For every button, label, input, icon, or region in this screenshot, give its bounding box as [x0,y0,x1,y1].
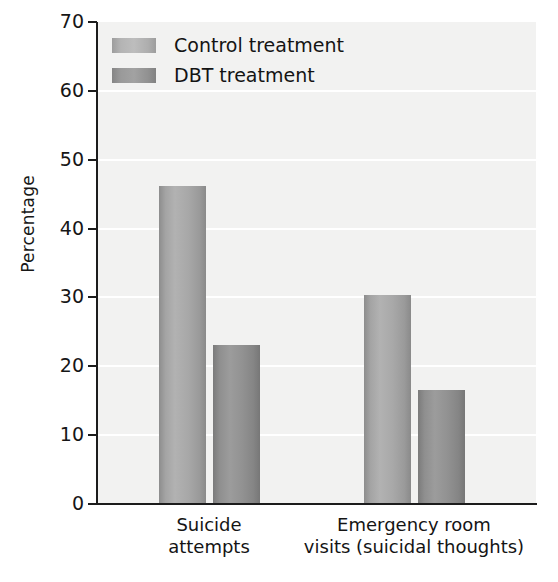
legend-item-dbt: DBT treatment [112,60,344,90]
y-axis-tick [88,21,97,23]
y-axis-tick-label: 20 [22,356,84,375]
legend-label-control: Control treatment [174,36,344,55]
bar-control-1 [364,295,411,504]
y-axis-tick [88,228,97,230]
y-axis-tick-label: 30 [22,287,84,306]
legend-swatch-control-icon [112,38,156,53]
legend-swatch-dbt-icon [112,68,156,83]
bar-dbt-1 [418,390,465,504]
legend-label-dbt: DBT treatment [174,66,315,85]
y-axis-tick-label: 10 [22,425,84,444]
y-axis-tick-label: 60 [22,81,84,100]
y-axis-line [96,22,98,505]
y-axis-tick-label: 0 [22,494,84,513]
category-label-line: Suicide [109,514,309,536]
y-axis-tick [88,159,97,161]
y-axis-tick [88,503,97,505]
legend-item-control: Control treatment [112,30,344,60]
plot-area [98,22,536,504]
y-axis-tick [88,296,97,298]
category-label-line: visits (suicidal thoughts) [284,536,544,558]
y-axis-tick-label: 70 [22,12,84,31]
gridline [98,159,536,161]
y-axis-tick [88,434,97,436]
y-axis-tick-label: 40 [22,219,84,238]
category-label-0: Suicideattempts [109,514,309,558]
bar-dbt-0 [213,345,260,504]
category-label-line: Emergency room [284,514,544,536]
category-label-line: attempts [109,536,309,558]
legend: Control treatment DBT treatment [112,30,344,90]
bar-control-0 [159,186,206,504]
y-axis-tick [88,90,97,92]
y-axis-tick-label: 50 [22,150,84,169]
y-axis-tick [88,365,97,367]
gridline [98,90,536,92]
category-label-1: Emergency roomvisits (suicidal thoughts) [284,514,544,558]
x-axis-line [96,503,537,505]
bar-chart: Percentage 010203040506070 Control treat… [0,0,558,582]
